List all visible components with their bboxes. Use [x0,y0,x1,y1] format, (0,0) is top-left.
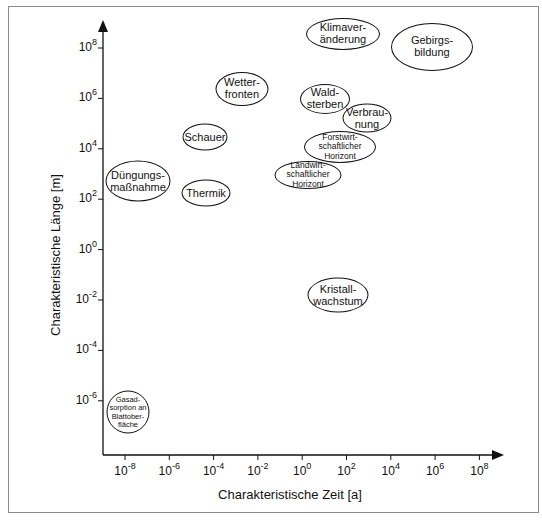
x-tick-label: 10-8 [114,462,135,478]
x-tick-label: 104 [382,462,400,478]
process-ellipse: Gasad- sorption an Blattober- fläche [107,391,150,434]
y-tick-label: 10-2 [76,290,97,306]
y-tick-label: 108 [79,38,97,54]
process-ellipse: Kristall- wachstum [308,278,369,313]
y-axis-arrow-icon [98,20,108,32]
y-ticks [98,48,103,401]
x-axis-arrow-icon [492,450,504,460]
y-tick-label: 106 [79,88,97,104]
process-label: Düngungs- maßnahme [110,169,166,193]
y-tick-label: 104 [79,139,97,155]
process-label: Schauer [185,131,226,143]
process-ellipse: Verbrau- nung [343,104,392,133]
x-tick-label: 108 [470,462,488,478]
y-axis-title: Charakteristische Länge [m] [48,174,63,336]
x-tick-label: 10-6 [159,462,180,478]
process-label: Forstwirt- schaftlicher Horizont [319,133,362,161]
process-ellipse: Thermik [182,180,231,207]
process-label: Verbrau- nung [346,106,388,130]
process-label: Thermik [186,187,226,199]
process-ellipse: Wetter- fronten [216,72,269,106]
x-tick-label: 102 [337,462,355,478]
axes [0,0,542,521]
x-ticks [125,455,479,460]
x-axis-title: Charakteristische Zeit [a] [218,487,362,502]
process-ellipse: Schauer [183,124,228,151]
y-tick-label: 10-4 [76,340,97,356]
process-label: Gebirgs- bildung [411,35,453,59]
process-label: Landwirt- schaftlicher Horizont [287,161,330,189]
process-ellipse: Forstwirt- schaftlicher Horizont [304,131,376,163]
process-ellipse: Düngungs- maßnahme [106,161,171,202]
x-tick-label: 106 [426,462,444,478]
process-ellipse: Klimaver- änderung [306,18,380,50]
process-label: Klimaver- änderung [320,22,367,46]
x-tick-label: 100 [293,462,311,478]
y-tick-label: 10-6 [76,391,97,407]
process-ellipse: Wald- sterben [300,84,350,114]
x-tick-label: 10-4 [203,462,224,478]
y-tick-label: 100 [79,240,97,256]
process-ellipse: Landwirt- schaftlicher Horizont [275,161,342,189]
x-tick-label: 10-2 [247,462,268,478]
process-label: Wald- sterben [307,87,344,111]
process-label: Kristall- wachstum [313,283,363,307]
y-tick-label: 102 [79,189,97,205]
process-label: Wetter- fronten [224,77,260,101]
process-ellipse: Gebirgs- bildung [391,23,473,71]
process-label: Gasad- sorption an Blattober- fläche [109,396,146,428]
